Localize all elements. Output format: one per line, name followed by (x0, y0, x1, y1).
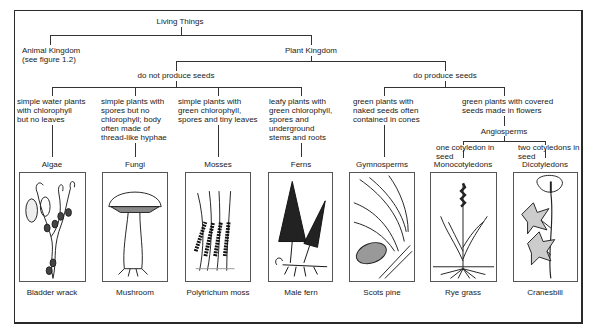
moss-icon (186, 173, 250, 281)
connector (135, 143, 136, 157)
group-mosses: Mosses (204, 160, 232, 169)
mushroom-icon (103, 173, 167, 281)
illustration-bladder-wrack (19, 172, 86, 282)
connector (181, 27, 182, 35)
connector (176, 61, 177, 71)
flower-icon (514, 173, 577, 281)
group-monocotyledons: Monocotyledons (434, 160, 492, 169)
connector (445, 61, 446, 71)
connector (50, 35, 51, 45)
connector (52, 125, 53, 157)
node-plant-kingdom: Plant Kingdom (285, 46, 337, 55)
caption-scots-pine: Scots pine (363, 288, 400, 297)
caption-cranesbill: Cranesbill (527, 288, 563, 297)
group-algae: Algae (42, 160, 62, 169)
caption-mushroom: Mushroom (116, 288, 154, 297)
connector (52, 87, 53, 96)
illustration-rye-grass (430, 172, 497, 282)
caption-rye-grass: Rye grass (445, 288, 481, 297)
connector (545, 150, 546, 158)
group-dicotyledons: Dicotyledons (522, 160, 568, 169)
group-ferns: Ferns (291, 160, 311, 169)
connector (176, 61, 446, 62)
illustration-male-fern (268, 172, 333, 282)
grass-icon (431, 173, 496, 281)
caption-male-fern: Male fern (284, 288, 317, 297)
connector (463, 141, 546, 142)
group-gymnosperms: Gymnosperms (356, 160, 408, 169)
connector (384, 87, 385, 96)
connector (504, 116, 505, 126)
pine-icon (350, 173, 414, 281)
connector (311, 35, 312, 45)
connector (52, 87, 302, 88)
group-fungi: Fungi (125, 160, 145, 169)
node-no-seeds: do not produce seeds (138, 71, 215, 80)
illustration-polytrichum-moss (185, 172, 251, 282)
animal-kingdom-note: (see figure 1.2) (22, 55, 76, 64)
illustration-cranesbill (513, 172, 578, 282)
connector (218, 87, 219, 96)
connector (384, 87, 505, 88)
caption-polytrichum-moss: Polytrichum moss (186, 288, 249, 297)
connector (181, 35, 312, 36)
connector (301, 143, 302, 157)
node-animal-kingdom: Animal Kingdom (22, 46, 80, 55)
illustration-scots-pine (349, 172, 415, 282)
caption-bladder-wrack: Bladder wrack (27, 288, 78, 297)
connector (135, 87, 136, 96)
connector (504, 87, 505, 96)
connector (218, 125, 219, 157)
connector (301, 87, 302, 96)
connector (463, 150, 464, 158)
illustration-mushroom (102, 172, 168, 282)
node-seeds: do produce seeds (413, 71, 477, 80)
fern-icon (269, 173, 332, 281)
connector (384, 125, 385, 157)
node-angiosperms: Angiosperms (481, 127, 528, 136)
node-living-things: Living Things (157, 17, 204, 26)
seaweed-icon (20, 173, 85, 281)
